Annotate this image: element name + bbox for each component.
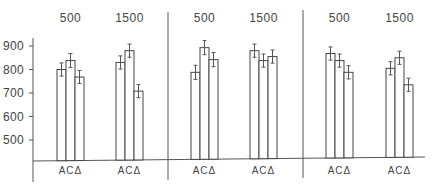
y-tick-label: 600	[3, 110, 24, 124]
y-tick-label: 800	[3, 63, 24, 77]
bar-delta	[404, 85, 413, 157]
bar-A	[116, 62, 125, 160]
bar-delta	[134, 91, 143, 160]
group-label: 1500	[249, 11, 278, 25]
y-tick-label: 700	[3, 86, 24, 100]
x-axis-baseline	[33, 157, 425, 161]
bar-delta	[209, 60, 218, 160]
bar-C	[335, 61, 344, 158]
bar-C	[259, 61, 268, 159]
bars	[57, 41, 413, 161]
bar-A	[326, 54, 335, 159]
group-label: 500	[194, 11, 216, 25]
category-labels: ACΔ	[193, 165, 217, 176]
y-tick-label: 900	[3, 39, 24, 53]
bar-delta	[344, 72, 353, 158]
category-labels: ACΔ	[59, 165, 83, 176]
category-labels: ACΔ	[388, 165, 412, 176]
bar-A	[386, 68, 395, 157]
group-label: 500	[329, 11, 351, 25]
group-label: 1500	[115, 11, 144, 25]
bar-A	[191, 72, 200, 159]
bar-A	[250, 51, 259, 159]
bar-C	[200, 48, 209, 160]
group-label: 1500	[385, 11, 414, 25]
axes	[29, 10, 425, 182]
category-labels: ACΔ	[118, 165, 142, 176]
y-tick-label: 500	[3, 133, 24, 147]
category-labels: ACΔ	[328, 165, 352, 176]
group-label: 500	[60, 11, 82, 25]
bar-delta	[75, 77, 84, 161]
category-labels: ACΔ	[252, 165, 276, 176]
bar-delta	[268, 57, 277, 159]
bar-C	[66, 61, 75, 161]
grouped-bar-chart: 500600700800900500ACΔ1500ACΔ500ACΔ1500AC…	[0, 0, 433, 186]
bar-C	[395, 58, 404, 158]
bar-C	[125, 51, 134, 160]
bar-A	[57, 70, 66, 161]
